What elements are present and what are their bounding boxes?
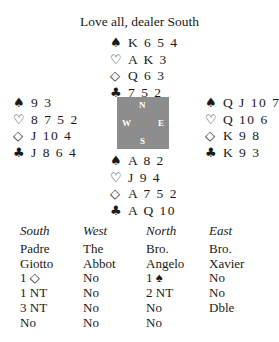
auction-cell: No [83, 301, 146, 316]
auction-cell: No [146, 316, 209, 331]
heart-icon: ♡ [13, 112, 31, 129]
compass-north-label: N [139, 100, 146, 110]
diamond-icon: ◇ [110, 186, 128, 203]
diamond-icon: ◇ [205, 128, 223, 145]
auction-cell: 1 ♠ [146, 271, 209, 286]
diamond-icon: ◇ [13, 128, 31, 145]
compass-east-label: E [158, 118, 164, 128]
compass-west-label: W [122, 118, 131, 128]
header-west: West [83, 224, 146, 242]
auction-row: 3 NT No No Dble [20, 301, 272, 316]
east-diamonds: K 9 8 [223, 128, 261, 143]
header-north: North [146, 224, 209, 242]
auction-cell: 1 NT [20, 286, 83, 301]
auction-cell [209, 316, 272, 331]
south-hearts: J 9 4 [128, 170, 161, 185]
north-hand: ♠K 6 5 4 ♡A K 3 ◇Q 6 3 ♣7 5 2 [110, 35, 179, 101]
auction-cell: Bro. [209, 242, 272, 257]
west-hearts: 8 7 5 2 [31, 112, 79, 127]
auction-table: South West North East Padre The Bro. Bro… [20, 224, 272, 330]
club-icon: ♣ [13, 145, 31, 162]
bidding-auction: South West North East Padre The Bro. Bro… [20, 224, 272, 330]
auction-cell: 1 ◇ [20, 271, 83, 286]
east-spades: Q J 10 7 [223, 95, 279, 110]
east-hearts: Q 10 6 [223, 112, 269, 127]
south-spades: A 8 2 [128, 153, 165, 168]
east-clubs: K 9 3 [223, 145, 261, 160]
compass-box: N W E S [117, 97, 169, 149]
auction-cell: The [83, 242, 146, 257]
auction-cell: 2 NT [146, 286, 209, 301]
auction-row: 1 NT No 2 NT No [20, 286, 272, 301]
auction-cell: No [146, 301, 209, 316]
auction-cell: Xavier [209, 257, 272, 272]
auction-cell: No [83, 271, 146, 286]
compass-south-label: S [140, 136, 145, 146]
auction-row: 1 ◇ No 1 ♠ No [20, 271, 272, 286]
header-south: South [20, 224, 83, 242]
south-clubs: A Q 10 [128, 203, 176, 218]
auction-cell: Bro. [146, 242, 209, 257]
auction-cell: No [209, 286, 272, 301]
auction-cell: 3 NT [20, 301, 83, 316]
header-east: East [209, 224, 272, 242]
auction-cell: Angelo [146, 257, 209, 272]
north-diamonds: Q 6 3 [128, 68, 166, 83]
auction-row: Giotto Abbot Angelo Xavier [20, 257, 272, 272]
west-diamonds: J 10 4 [31, 128, 72, 143]
auction-row: Padre The Bro. Bro. [20, 242, 272, 257]
west-hand: ♠9 3 ♡8 7 5 2 ◇J 10 4 ♣J 8 6 4 [13, 95, 79, 161]
north-spades: K 6 5 4 [128, 35, 179, 50]
club-icon: ♣ [110, 203, 128, 220]
auction-cell: No [83, 286, 146, 301]
spade-icon: ♠ [205, 95, 223, 112]
west-clubs: J 8 6 4 [31, 145, 77, 160]
auction-header-row: South West North East [20, 224, 272, 242]
auction-cell: Abbot [83, 257, 146, 272]
club-icon: ♣ [205, 145, 223, 162]
auction-cell: Padre [20, 242, 83, 257]
spade-icon: ♠ [110, 153, 128, 170]
heart-icon: ♡ [110, 170, 128, 187]
spade-icon: ♠ [110, 35, 128, 52]
auction-cell: Dble [209, 301, 272, 316]
east-hand: ♠Q J 10 7 ♡Q 10 6 ◇K 9 8 ♣K 9 3 [205, 95, 279, 161]
deal-title: Love all, dealer South [0, 14, 279, 30]
spade-icon: ♠ [13, 95, 31, 112]
auction-cell: Giotto [20, 257, 83, 272]
south-diamonds: A 7 5 2 [128, 186, 178, 201]
heart-icon: ♡ [110, 52, 128, 69]
north-hearts: A K 3 [128, 52, 168, 67]
south-hand: ♠A 8 2 ♡J 9 4 ◇A 7 5 2 ♣A Q 10 [110, 153, 178, 219]
west-spades: 9 3 [31, 95, 52, 110]
auction-cell: No [83, 316, 146, 331]
heart-icon: ♡ [205, 112, 223, 129]
auction-row: No No No [20, 316, 272, 331]
auction-cell: No [209, 271, 272, 286]
auction-cell: No [20, 316, 83, 331]
diamond-icon: ◇ [110, 68, 128, 85]
